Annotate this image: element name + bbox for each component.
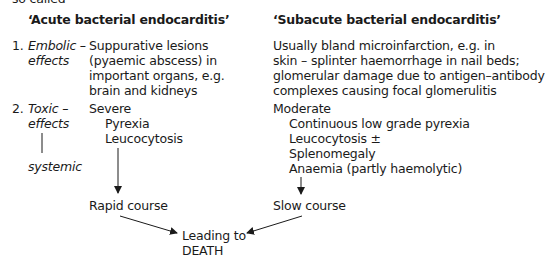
subacute-to-death-arrow [247,216,302,233]
acute-to-death-arrow [120,216,177,233]
